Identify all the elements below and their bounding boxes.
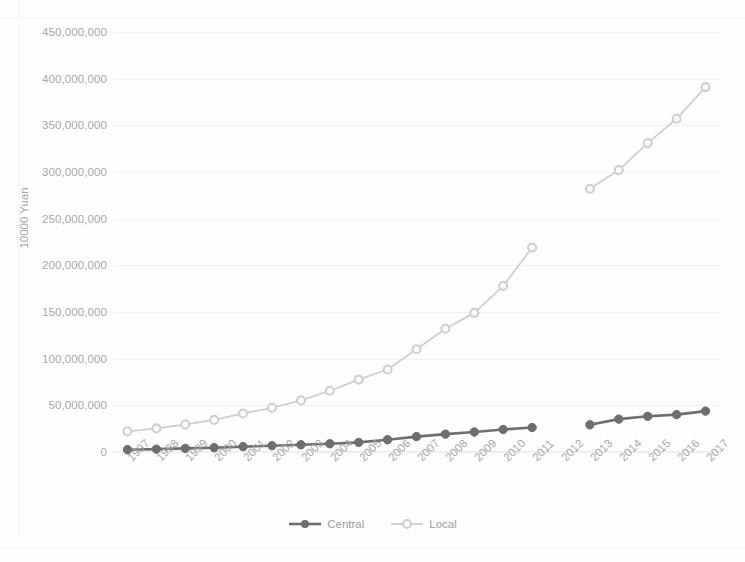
data-point <box>383 436 391 444</box>
data-point <box>615 415 623 423</box>
y-axis-tick-label: 350,000,000 <box>3 119 107 131</box>
data-point <box>181 421 189 429</box>
y-axis-tick-label: 300,000,000 <box>3 166 107 178</box>
data-point <box>355 376 363 384</box>
scan-artifact-bottom <box>0 548 745 549</box>
y-axis-tick-label: 50,000,000 <box>3 399 107 411</box>
data-point <box>210 416 218 424</box>
data-point <box>239 410 247 418</box>
data-point <box>615 166 623 174</box>
data-point <box>355 438 363 446</box>
legend-item-central[interactable]: Central <box>288 518 364 530</box>
data-point <box>297 396 305 404</box>
data-point <box>528 244 536 252</box>
data-point <box>470 309 478 317</box>
scan-artifact-top <box>0 17 745 18</box>
series-central <box>123 407 709 454</box>
chart-legend: CentralLocal <box>0 518 745 530</box>
data-point <box>470 428 478 436</box>
y-axis-tick-label: 0 <box>3 446 107 458</box>
y-axis-tick-label: 150,000,000 <box>3 306 107 318</box>
data-point <box>152 424 160 432</box>
data-point <box>268 404 276 412</box>
data-point <box>499 425 507 433</box>
legend-label: Central <box>327 518 364 530</box>
legend-marker-icon <box>390 518 424 530</box>
legend-item-local[interactable]: Local <box>390 518 457 530</box>
y-axis-tick-labels: 450,000,000400,000,000350,000,000300,000… <box>0 32 107 452</box>
chart-container: 10000 Yuan 450,000,000400,000,000350,000… <box>0 0 745 562</box>
data-point <box>528 423 536 431</box>
data-point <box>326 387 334 395</box>
legend-label: Local <box>429 518 457 530</box>
data-point <box>297 441 305 449</box>
data-point <box>441 430 449 438</box>
y-axis-tick-label: 200,000,000 <box>3 259 107 271</box>
y-axis-tick-label: 250,000,000 <box>3 213 107 225</box>
series-line <box>128 248 533 432</box>
data-point <box>384 366 392 374</box>
data-point <box>586 185 594 193</box>
data-point <box>673 115 681 123</box>
x-axis-tick-labels: 1997199819992000200120022003200420052006… <box>113 455 720 515</box>
data-point <box>499 282 507 290</box>
data-point <box>326 440 334 448</box>
data-point <box>644 139 652 147</box>
data-point <box>412 432 420 440</box>
data-point <box>701 407 709 415</box>
series-layer <box>113 32 720 452</box>
y-axis-tick-label: 450,000,000 <box>3 26 107 38</box>
y-axis-tick-label: 400,000,000 <box>3 73 107 85</box>
series-line <box>590 87 706 189</box>
data-point <box>441 325 449 333</box>
data-point <box>672 410 680 418</box>
y-axis-tick-label: 100,000,000 <box>3 353 107 365</box>
data-point <box>702 83 710 91</box>
legend-marker-icon <box>288 518 322 530</box>
data-point <box>586 421 594 429</box>
series-local <box>124 83 710 435</box>
data-point <box>124 427 132 435</box>
data-point <box>644 412 652 420</box>
data-point <box>413 345 421 353</box>
